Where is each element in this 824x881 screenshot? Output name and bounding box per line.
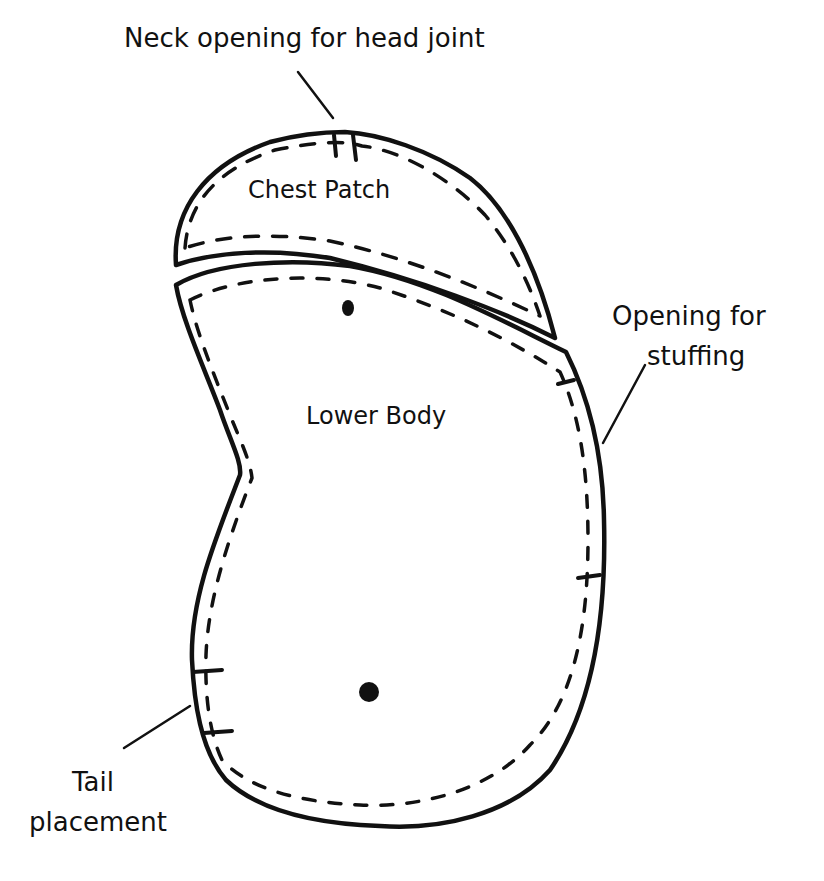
tail-leader-line [124, 706, 190, 748]
neck-opening-mark [334, 135, 356, 160]
chest-patch-seam [185, 143, 540, 316]
stuffing-opening-start-mark [558, 380, 574, 384]
tail-placement-bottom-mark [204, 731, 232, 733]
lower-body-outline [176, 262, 604, 826]
body-marker-dot [359, 682, 379, 702]
eye-marker-dot [342, 300, 354, 316]
tail-placement-label-line2: placement [29, 806, 167, 839]
pattern-diagram [0, 0, 824, 881]
neck-opening-label: Neck opening for head joint [124, 22, 485, 55]
lower-body-seam [190, 278, 588, 805]
stuffing-opening-end-mark [578, 575, 600, 578]
stuffing-opening-label-line1: Opening for [612, 300, 766, 333]
tail-placement-label-line1: Tail [72, 766, 114, 799]
stuffing-opening-label-line2: stuffing [647, 340, 745, 373]
tail-placement-top-mark [193, 670, 222, 672]
stuffing-leader-line [603, 365, 645, 443]
chest-patch-label: Chest Patch [248, 175, 390, 205]
lower-body-label: Lower Body [306, 401, 446, 431]
neck-leader-line [298, 72, 333, 118]
